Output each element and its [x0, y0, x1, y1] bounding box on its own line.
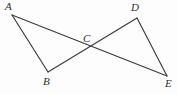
- vertex-label-a: A: [5, 1, 12, 12]
- geometry-canvas: [0, 0, 177, 95]
- vertex-label-c: C: [83, 33, 90, 44]
- geometry-diagram: A B C D E: [0, 0, 177, 95]
- segment-ae: [12, 15, 167, 76]
- vertex-label-b: B: [43, 76, 50, 87]
- vertex-label-e: E: [165, 78, 172, 89]
- vertex-label-d: D: [131, 2, 139, 13]
- segment-bd: [48, 18, 137, 72]
- segment-de: [137, 18, 167, 76]
- segment-ab: [12, 15, 48, 72]
